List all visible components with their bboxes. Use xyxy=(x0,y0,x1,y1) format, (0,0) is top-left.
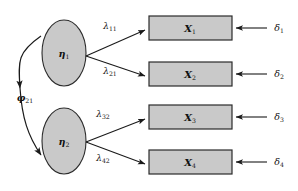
loading-path-lambda42 xyxy=(86,142,145,164)
loading-label-lambda32: λ32 xyxy=(95,109,110,120)
error-label-delta2: δ2 xyxy=(274,68,284,80)
loading-label-lambda11: λ11 xyxy=(102,21,117,32)
error-label-delta4: δ4 xyxy=(274,156,284,168)
loading-label-lambda42: λ42 xyxy=(95,153,110,164)
loading-path-lambda11 xyxy=(86,30,145,56)
diagram-canvas: η1 η2 X1 X2 X3 X4 λ11 λ21 λ32 λ42 xyxy=(0,0,298,191)
covariance-curve-upper-arrow xyxy=(19,36,41,88)
covariance-label-phi21: φ21 xyxy=(17,92,34,104)
sem-path-diagram: η1 η2 X1 X2 X3 X4 λ11 λ21 λ32 λ42 xyxy=(0,0,298,191)
loading-label-lambda21: λ21 xyxy=(102,66,117,77)
error-label-delta1: δ1 xyxy=(274,22,284,34)
loading-path-lambda32 xyxy=(86,119,145,142)
error-label-delta3: δ3 xyxy=(274,111,284,123)
